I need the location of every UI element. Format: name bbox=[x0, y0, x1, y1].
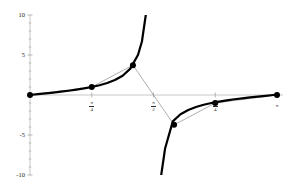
x-tick-label: π4 bbox=[83, 100, 101, 113]
x-tick-label: π2 bbox=[145, 100, 163, 113]
chart-canvas bbox=[0, 0, 288, 189]
x-tick-label: 3π4 bbox=[206, 100, 224, 113]
x-tick-label: π bbox=[268, 103, 286, 108]
data-point-marker bbox=[171, 122, 177, 128]
fraction-numerator: π bbox=[145, 100, 163, 105]
data-point-marker bbox=[130, 62, 136, 68]
data-point-marker bbox=[89, 84, 95, 90]
fraction-denominator: 4 bbox=[83, 107, 101, 112]
data-point-marker bbox=[274, 92, 280, 98]
fraction-denominator: 4 bbox=[206, 107, 224, 112]
y-tick-label: 10 bbox=[0, 12, 25, 19]
y-tick-label: -10 bbox=[0, 172, 25, 179]
fraction-numerator: 3π bbox=[206, 100, 224, 105]
fraction-numerator: π bbox=[83, 100, 101, 105]
data-point-marker bbox=[27, 92, 33, 98]
fraction-denominator: 2 bbox=[145, 107, 163, 112]
y-tick-label: 5 bbox=[0, 52, 25, 59]
chart-plot-area: -10-5510 π4π23π4π bbox=[0, 0, 288, 189]
axis-layer bbox=[28, 15, 284, 175]
y-tick-label: -5 bbox=[0, 132, 25, 139]
